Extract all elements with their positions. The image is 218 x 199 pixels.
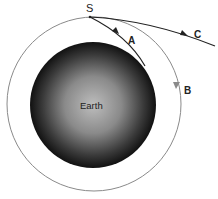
orbit-diagram: S A B C Earth: [0, 0, 218, 199]
label-c: C: [194, 29, 201, 40]
label-b: B: [184, 85, 191, 96]
label-earth: Earth: [80, 100, 103, 111]
label-s: S: [86, 2, 93, 14]
start-point-s: [89, 16, 92, 19]
arrow-c-icon: [180, 30, 188, 36]
label-a: A: [128, 35, 135, 46]
